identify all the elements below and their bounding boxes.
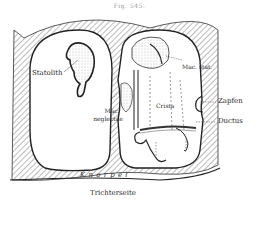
macula-statica [132, 37, 169, 68]
label-knorpel: K n o r p e l [80, 172, 128, 179]
label-zapfen: Zapfen [218, 98, 243, 105]
label-statolith: Statolith [32, 70, 63, 77]
label-ductus: Ductus [218, 118, 243, 125]
label-mac-stat: Mac. stat. [182, 64, 212, 70]
label-mac-neglectae-1: Mac. [94, 108, 130, 114]
label-crista: Crista [156, 103, 174, 109]
label-mac-neglectae-2: neglectae [86, 116, 130, 122]
label-trichterseite: Trichterseite [90, 190, 136, 197]
